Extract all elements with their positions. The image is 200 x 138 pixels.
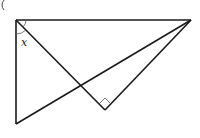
angle-arc-x bbox=[16, 30, 26, 34]
segment-ad bbox=[16, 20, 105, 110]
cropped-label-paren bbox=[2, 0, 4, 10]
geometry-diagram: x bbox=[0, 0, 200, 138]
angle-label-x: x bbox=[21, 36, 28, 49]
angle-arc-top bbox=[23, 20, 26, 27]
right-angle-marker bbox=[99, 98, 111, 104]
segment-db bbox=[105, 20, 191, 110]
